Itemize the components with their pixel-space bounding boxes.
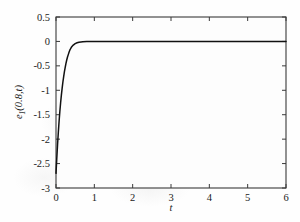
y-axis-tick-labels: 0.50-0.5-1-1.5-2-2.5-3 — [33, 12, 50, 194]
y-tick-label: -2 — [41, 134, 50, 145]
x-tick-label: 0 — [53, 192, 58, 203]
y-tick-label: -1 — [41, 85, 50, 96]
x-tick-label: 5 — [245, 192, 250, 203]
y-tick-label: 0.5 — [37, 12, 50, 23]
x-axis-title: t — [170, 202, 174, 213]
figure-canvas: 0123456 0.50-0.5-1-1.5-2-2.5-3 t e1(0.8,… — [0, 0, 300, 222]
x-tick-label: 4 — [207, 192, 213, 203]
y-axis-title: e1(0.8,t) — [13, 84, 27, 119]
y-tick-label: -3 — [41, 183, 50, 194]
y-tick-label: -2.5 — [33, 158, 50, 169]
y-tick-label: -0.5 — [33, 60, 50, 71]
x-tick-label: 6 — [283, 192, 288, 203]
plot-background — [56, 17, 286, 188]
y-tick-label: 0 — [45, 36, 50, 47]
y-tick-label: -1.5 — [33, 109, 50, 120]
x-tick-label: 1 — [92, 192, 97, 203]
x-tick-label: 2 — [130, 192, 135, 203]
line-chart: 0123456 0.50-0.5-1-1.5-2-2.5-3 t e1(0.8,… — [0, 0, 300, 222]
